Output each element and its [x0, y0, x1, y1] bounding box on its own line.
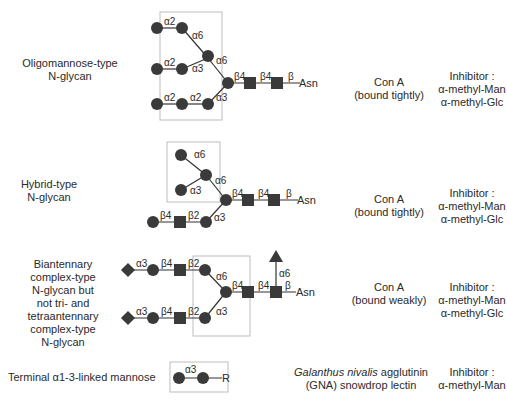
mannose-icon: [200, 169, 212, 181]
glcnac-icon: [174, 264, 186, 276]
galactose-icon: [147, 264, 159, 276]
mannose-icon: [200, 216, 212, 228]
glcnac-icon: [270, 286, 282, 298]
mannose-icon: [175, 184, 187, 196]
linkage-label: α6: [216, 271, 228, 282]
mannose-icon: [199, 312, 211, 324]
linkage-label: β2: [188, 306, 200, 317]
mannose-icon: [222, 77, 234, 89]
linkage-label: β4: [232, 188, 244, 199]
linkage-label: β: [288, 71, 294, 82]
mannose-icon: [202, 98, 214, 110]
linkage-label: α6: [215, 175, 227, 186]
terminal-mannose-structure: α3 R: [170, 362, 230, 392]
hybrid-structure: α6 α3 α6 β4 β2 α3 β4 β4 β Asn: [147, 142, 316, 228]
linkage-label: α3: [136, 258, 148, 269]
mannose-icon: [173, 372, 185, 384]
galactose-icon: [147, 216, 159, 228]
mannose-icon: [176, 98, 188, 110]
mannose-icon: [176, 22, 188, 34]
oligomannose-structure: α2 α6 α2 α3 α6 α2 α2 α3 β4 β4 β Asn: [151, 12, 318, 120]
linkage-label: α2: [164, 57, 176, 68]
mannose-icon: [220, 286, 232, 298]
mannose-icon: [199, 264, 211, 276]
asn-label: Asn: [296, 286, 315, 298]
linkage-label: β4: [234, 71, 246, 82]
glcnac-icon: [242, 194, 254, 206]
linkage-label: α2: [164, 92, 176, 103]
linkage-label: β: [285, 280, 291, 291]
linkage-label: β4: [260, 71, 272, 82]
linkage-label: β2: [188, 258, 200, 269]
linkage-label: α3: [190, 185, 202, 196]
glcnac-icon: [244, 77, 256, 89]
linkage-label: α3: [216, 92, 228, 103]
linkage-label: β4: [161, 258, 173, 269]
biantennary-structure: α3 β4 β2 α6 α3 β4 β2 α3 β4 β4 α6 β Asn: [121, 250, 315, 336]
mannose-icon: [151, 98, 163, 110]
galactose-icon: [147, 312, 159, 324]
sialic-acid-icon: [121, 263, 135, 277]
glycan-structures: α2 α6 α2 α3 α6 α2 α2 α3 β4 β4 β Asn: [0, 0, 507, 401]
linkage-label: β4: [161, 306, 173, 317]
linkage-label: β: [286, 188, 292, 199]
linkage-label: β4: [258, 188, 270, 199]
linkage-label: α6: [194, 149, 206, 160]
linkage-label: α3: [136, 306, 148, 317]
mannose-icon: [176, 63, 188, 75]
linkage-label: α3: [185, 364, 197, 375]
glcnac-icon: [242, 286, 254, 298]
mannose-icon: [151, 22, 163, 34]
linkage-label: β4: [232, 280, 244, 291]
linkage-label: β4: [258, 280, 270, 291]
r-group-label: R: [222, 372, 230, 384]
mannose-icon: [202, 50, 214, 62]
glcnac-icon: [174, 312, 186, 324]
fucose-icon: [269, 250, 283, 262]
sialic-acid-icon: [121, 311, 135, 325]
mannose-icon: [151, 63, 163, 75]
glcnac-icon: [174, 216, 186, 228]
asn-label: Asn: [297, 194, 316, 206]
mannose-icon: [197, 372, 209, 384]
linkage-label: α2: [190, 92, 202, 103]
linkage-label: α2: [164, 16, 176, 27]
linkage-label: α6: [192, 30, 204, 41]
linkage-label: α6: [216, 55, 228, 66]
mannose-icon: [220, 194, 232, 206]
linkage-label: α3: [192, 63, 204, 74]
linkage-label: β2: [188, 210, 200, 221]
linkage-label: α3: [214, 212, 226, 223]
linkage-label: α6: [279, 268, 291, 279]
asn-label: Asn: [299, 77, 318, 89]
mannose-icon: [175, 149, 187, 161]
linkage-label: α3: [216, 306, 228, 317]
glcnac-icon: [271, 77, 283, 89]
glcnac-icon: [268, 194, 280, 206]
linkage-label: β4: [160, 210, 172, 221]
